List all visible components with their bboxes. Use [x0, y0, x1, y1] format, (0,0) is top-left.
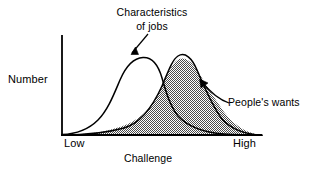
arrowhead-characteristics-icon [131, 47, 139, 55]
y-axis-label: Number [8, 73, 48, 86]
annotation-characteristics-line2: of jobs [97, 19, 207, 33]
annotation-characteristics-line1: Characteristics [97, 5, 207, 19]
x-axis-label: Challenge [124, 152, 172, 165]
x-axis-tick-low: Low [64, 137, 84, 150]
figure-overlapping-distributions: Characteristics of jobs Number People's … [0, 0, 310, 171]
x-axis-tick-high: High [233, 137, 256, 150]
annotation-characteristics-of-jobs: Characteristics of jobs [97, 5, 207, 33]
annotation-peoples-wants: People's wants [228, 96, 300, 109]
